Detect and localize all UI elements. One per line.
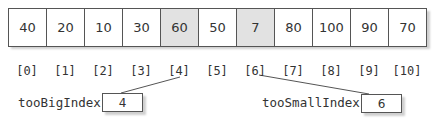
too-big-index-value: 4 bbox=[102, 93, 143, 112]
array-index: [4] bbox=[160, 64, 198, 78]
too-big-index-label: tooBigIndex bbox=[18, 95, 101, 110]
array-cell: 30 bbox=[122, 8, 161, 47]
array-cell: 80 bbox=[274, 8, 313, 47]
array: 40 20 10 30 60 50 7 80 100 90 70 bbox=[8, 8, 427, 46]
array-index: [2] bbox=[84, 64, 122, 78]
array-index: [0] bbox=[8, 64, 46, 78]
array-cell: 50 bbox=[198, 8, 237, 47]
array-index: [10] bbox=[388, 64, 426, 78]
too-small-index-value: 6 bbox=[361, 94, 402, 113]
array-cell: 20 bbox=[46, 8, 85, 47]
array-index: [5] bbox=[198, 64, 236, 78]
array-index: [6] bbox=[236, 64, 274, 78]
array-cell: 40 bbox=[8, 8, 47, 47]
array-cell-highlighted: 60 bbox=[160, 8, 199, 47]
too-small-index-label: tooSmallIndex bbox=[262, 95, 360, 110]
array-index: [8] bbox=[312, 64, 350, 78]
array-index: [3] bbox=[122, 64, 160, 78]
array-cell: 100 bbox=[312, 8, 351, 47]
array-index: [1] bbox=[46, 64, 84, 78]
array-cell: 70 bbox=[388, 8, 427, 47]
array-cell: 10 bbox=[84, 8, 123, 47]
array-cell-highlighted: 7 bbox=[236, 8, 275, 47]
array-index: [9] bbox=[350, 64, 388, 78]
array-cell: 90 bbox=[350, 8, 389, 47]
array-index: [7] bbox=[274, 64, 312, 78]
